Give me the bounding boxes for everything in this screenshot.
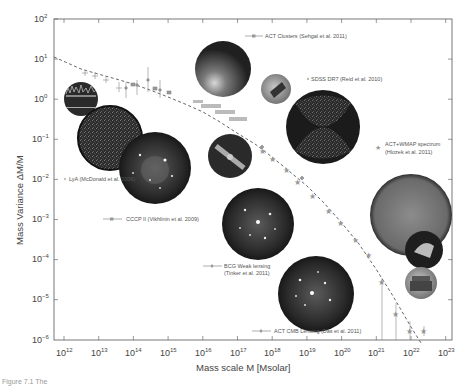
svg-text:1013: 1013 — [91, 347, 108, 358]
legend-cccp: CCCP II (Vikhlinin et al. 2009) — [103, 216, 199, 222]
svg-text:1022: 1022 — [403, 347, 420, 358]
legend-act-cmb: ACT CMB Lensing (Das et al. 2011) — [252, 328, 361, 334]
svg-text:1012: 1012 — [56, 347, 73, 358]
series-sdss-points — [125, 67, 162, 98]
svg-text:1014: 1014 — [125, 347, 142, 358]
svg-text:101: 101 — [34, 53, 48, 64]
svg-text:★: ★ — [420, 327, 427, 336]
svg-text:LyA (McDonald et al. 2006): LyA (McDonald et al. 2006) — [69, 176, 135, 182]
legend-act-clusters: ACT Clusters (Sehgal et al. 2011) — [245, 33, 347, 39]
svg-text:★: ★ — [269, 155, 276, 164]
svg-text:1017: 1017 — [230, 347, 247, 358]
svg-text:★: ★ — [294, 178, 301, 187]
svg-text:★: ★ — [378, 278, 385, 287]
svg-text:1021: 1021 — [368, 347, 385, 358]
inset-images — [64, 41, 452, 332]
sdss-survey-image — [286, 90, 360, 164]
svg-text:★: ★ — [352, 236, 359, 245]
legend-sdss: SDSS DR7 (Reid et al. 2010) — [307, 76, 382, 82]
y-axis-tick-labels: 102 101 100 10−1 10−2 10−3 10−4 10−5 10−… — [32, 13, 50, 345]
cccp-cluster-image — [119, 132, 191, 204]
mass-variance-chart: 1012 1013 1014 1015 1016 1017 1018 1019 … — [0, 0, 474, 387]
svg-text:★: ★ — [325, 207, 332, 216]
act-cmb-lensing-image — [278, 256, 354, 332]
satellite-image — [208, 134, 252, 178]
observatory-image — [405, 267, 437, 299]
x-axis-title: Mass scale M [Msolar] — [196, 362, 291, 373]
svg-text:(Tinker et al. 2011): (Tinker et al. 2011) — [224, 270, 270, 276]
svg-text:10−3: 10−3 — [32, 213, 50, 224]
svg-text:10−4: 10−4 — [32, 253, 50, 264]
svg-text:1023: 1023 — [438, 347, 455, 358]
legend-act-wmap: ★ ACT+WMAP spectrum (Hlozek et al. 2011) — [375, 141, 441, 155]
act-telescope-image — [405, 231, 443, 269]
svg-text:10−2: 10−2 — [32, 173, 50, 184]
svg-text:SDSS DR7 (Reid et al. 2010): SDSS DR7 (Reid et al. 2010) — [311, 76, 382, 82]
bcg-cluster-image — [222, 188, 294, 260]
svg-text:1015: 1015 — [160, 347, 177, 358]
svg-text:ACT+WMAP spectrum: ACT+WMAP spectrum — [385, 141, 441, 147]
x-axis-tick-labels: 1012 1013 1014 1015 1016 1017 1018 1019 … — [56, 347, 455, 358]
svg-text:1020: 1020 — [334, 347, 351, 358]
svg-text:★: ★ — [309, 192, 316, 201]
y-axis-title: Mass Variance ΔM/M — [14, 155, 25, 245]
svg-text:ACT Clusters (Sehgal et al. 20: ACT Clusters (Sehgal et al. 2011) — [265, 33, 347, 39]
svg-text:102: 102 — [34, 13, 48, 24]
svg-text:ACT CMB Lensing (Das et al. 20: ACT CMB Lensing (Das et al. 2011) — [274, 328, 361, 334]
svg-text:10−5: 10−5 — [32, 293, 50, 304]
svg-text:★: ★ — [365, 251, 372, 260]
svg-text:1018: 1018 — [264, 347, 281, 358]
sdss-telescope-image — [261, 74, 291, 104]
svg-text:★: ★ — [337, 219, 344, 228]
legend-lya: LyA (McDonald et al. 2006) — [64, 176, 135, 182]
figure-caption: Figure 7.1 The — [2, 378, 47, 385]
svg-text:★: ★ — [283, 166, 290, 175]
svg-text:100: 100 — [34, 93, 48, 104]
series-cccp-points — [193, 100, 247, 121]
svg-text:10−6: 10−6 — [32, 334, 50, 345]
svg-text:★: ★ — [375, 144, 381, 152]
svg-text:★: ★ — [392, 310, 399, 319]
svg-text:(Hlozek et al. 2011): (Hlozek et al. 2011) — [385, 149, 432, 155]
svg-text:1016: 1016 — [195, 347, 212, 358]
svg-text:10−1: 10−1 — [32, 133, 50, 144]
svg-text:★: ★ — [406, 327, 413, 336]
act-clusters-image — [195, 41, 251, 97]
svg-text:1019: 1019 — [299, 347, 316, 358]
svg-text:BCG Weak lensing: BCG Weak lensing — [224, 263, 270, 269]
svg-text:CCCP II (Vikhlinin et al. 2009: CCCP II (Vikhlinin et al. 2009) — [126, 216, 199, 222]
legend-bcg: BCG Weak lensing (Tinker et al. 2011) — [203, 263, 270, 276]
svg-text:★: ★ — [259, 147, 266, 156]
